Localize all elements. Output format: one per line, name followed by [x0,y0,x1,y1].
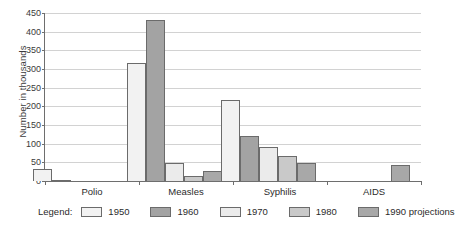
legend-item-1950[interactable]: 1950 [81,206,129,217]
x-axis-tick-mark [139,181,140,185]
bar-measles-1980 [184,176,203,181]
bar-syphilis-1960 [240,136,259,181]
bar-polio-1950 [33,169,52,181]
legend-item-1970[interactable]: 1970 [220,206,268,217]
bar-syphilis-1990-projections [297,163,316,181]
legend-item-1980[interactable]: 1980 [289,206,337,217]
x-axis-tick-mark [327,181,328,185]
bar-syphilis-1970 [259,147,278,181]
bar-polio-1960 [52,180,71,182]
bar-measles-1970 [165,163,184,181]
legend-swatch [358,207,379,217]
bar-syphilis-1950 [221,100,240,181]
x-axis-tick-mark [233,181,234,185]
bars-layer [45,13,421,181]
x-axis-tick-mark [421,181,422,185]
x-axis-group-label-syphilis: Syphilis [264,186,297,197]
legend-label: 1960 [177,206,198,217]
bar-group-polio [33,13,128,181]
legend-title: Legend: [38,206,72,217]
plot-area: 050100150200250300350400450 PolioMeasles… [44,13,421,182]
bar-measles-1990-projections [203,171,222,181]
bar-group-syphilis [221,13,316,181]
x-axis-group-label-measles: Measles [168,186,203,197]
legend-label: 1950 [108,206,129,217]
legend-label: 1970 [247,206,268,217]
legend-item-1960[interactable]: 1960 [150,206,198,217]
x-axis-group-label-aids: AIDS [363,186,385,197]
legend-item-1990-projections[interactable]: 1990 projections [358,206,455,217]
legend-swatch [289,207,310,217]
x-axis-group-label-polio: Polio [81,186,102,197]
legend-items: 19501960197019801990 projections [81,206,454,217]
bar-syphilis-1980 [278,156,297,181]
bar-group-measles [127,13,222,181]
legend-swatch [150,207,171,217]
bar-aids-1990-projections [391,165,410,181]
legend-label: 1980 [316,206,337,217]
legend-label: 1990 projections [385,206,455,217]
bar-measles-1950 [127,63,146,181]
bar-measles-1960 [146,20,165,181]
legend-swatch [220,207,241,217]
bar-group-aids [315,13,410,181]
legend: Legend: 19501960197019801990 projections [38,206,455,217]
legend-swatch [81,207,102,217]
x-axis-tick-mark [45,181,46,185]
